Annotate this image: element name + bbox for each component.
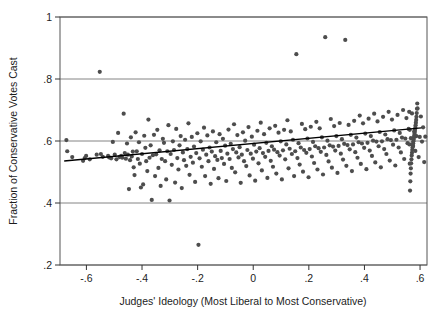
scatter-point (132, 173, 136, 177)
scatter-point (175, 156, 179, 160)
scatter-point (324, 153, 328, 157)
scatter-point (351, 142, 355, 146)
scatter-point (156, 166, 160, 170)
scatter-point (256, 161, 260, 165)
scatter-point (290, 152, 294, 156)
scatter-point (300, 122, 304, 126)
scatter-point (394, 138, 398, 142)
scatter-point (193, 180, 197, 184)
scatter-point (197, 156, 201, 160)
scatter-point (219, 149, 223, 153)
scatter-point (144, 159, 148, 163)
scatter-point (164, 177, 168, 181)
scatter-point (422, 160, 426, 164)
scatter-point (415, 111, 419, 115)
scatter-point (409, 171, 413, 175)
scatter-point (375, 119, 379, 123)
scatter-point (338, 121, 342, 125)
scatter-point (318, 126, 322, 130)
scatter-point (152, 133, 156, 137)
x-tick-label: .6 (416, 272, 425, 284)
scatter-point (204, 153, 208, 157)
scatter-point (360, 141, 364, 145)
scatter-point (189, 155, 193, 159)
scatter-point (173, 180, 177, 184)
scatter-point (283, 157, 287, 161)
x-tick-label: .4 (360, 272, 369, 284)
scatter-point (304, 151, 308, 155)
x-axis-title: Judges' Ideology (Most Liberal to Most C… (119, 295, 366, 307)
scatter-point (340, 137, 344, 141)
scatter-point (330, 166, 334, 170)
scatter-point (423, 135, 427, 139)
scatter-point (289, 129, 293, 133)
scatter-point (399, 150, 403, 154)
scatter-point (234, 150, 238, 154)
scatter-point (382, 147, 386, 151)
scatter-point (253, 179, 257, 183)
scatter-point (251, 157, 255, 161)
scatter-point (171, 139, 175, 143)
scatter-point (176, 167, 180, 171)
scatter-point (260, 168, 264, 172)
scatter-point (161, 137, 165, 141)
scatter-point (243, 139, 247, 143)
scatter-point (222, 162, 226, 166)
scatter-point (236, 155, 240, 159)
scatter-point (266, 149, 270, 153)
scatter-point (200, 165, 204, 169)
y-tick-label: .4 (43, 197, 52, 209)
scatter-point (310, 154, 314, 158)
scatter-point (122, 112, 126, 116)
scatter-point (408, 179, 412, 183)
scatter-point (408, 189, 412, 193)
scatter-point (84, 154, 88, 158)
scatter-point (286, 166, 290, 170)
scatter-point (182, 158, 186, 162)
scatter-point (166, 123, 170, 127)
scatter-point (70, 155, 74, 159)
scatter-point (326, 159, 330, 163)
scatter-point (369, 134, 373, 138)
scatter-point (240, 153, 244, 157)
scatter-point (383, 132, 387, 136)
scatter-point (352, 119, 356, 123)
scatter-point (415, 101, 419, 105)
scatter-point (353, 150, 357, 154)
scatter-point (272, 148, 276, 152)
scatter-point (132, 165, 136, 169)
scatter-point (215, 158, 219, 162)
scatter-point (404, 116, 408, 120)
scatter-point (354, 135, 358, 139)
scatter-point (274, 171, 278, 175)
scatter-point (336, 144, 340, 148)
scatter-point (191, 161, 195, 165)
scatter-point (127, 187, 131, 191)
x-tick-label: -.4 (136, 272, 148, 284)
scatter-point (242, 159, 246, 163)
scatter-point (398, 131, 402, 135)
scatter-point (248, 173, 252, 177)
x-tick-label: -.2 (191, 272, 203, 284)
scatter-point (372, 112, 376, 116)
scatter-point (319, 150, 323, 154)
scatter-point (414, 115, 418, 119)
scatter-point (293, 149, 297, 153)
scatter-point (177, 143, 181, 147)
scatter-point (134, 130, 138, 134)
scatter-point (246, 125, 250, 129)
scatter-point (281, 148, 285, 152)
scatter-point (374, 140, 378, 144)
x-tick-label: -.6 (80, 272, 92, 284)
x-tick-label: .2 (304, 272, 313, 284)
scatter-point (203, 174, 207, 178)
scatter-point (311, 140, 315, 144)
scatter-point (211, 129, 215, 133)
y-axis-title: Fraction of Conservative Votes Cast (7, 57, 19, 225)
scatter-point (276, 131, 280, 135)
scatter-point (195, 131, 199, 135)
scatter-point (202, 126, 206, 130)
scatter-point (131, 149, 135, 153)
scatter-point (170, 163, 174, 167)
scatter-point (359, 162, 363, 166)
